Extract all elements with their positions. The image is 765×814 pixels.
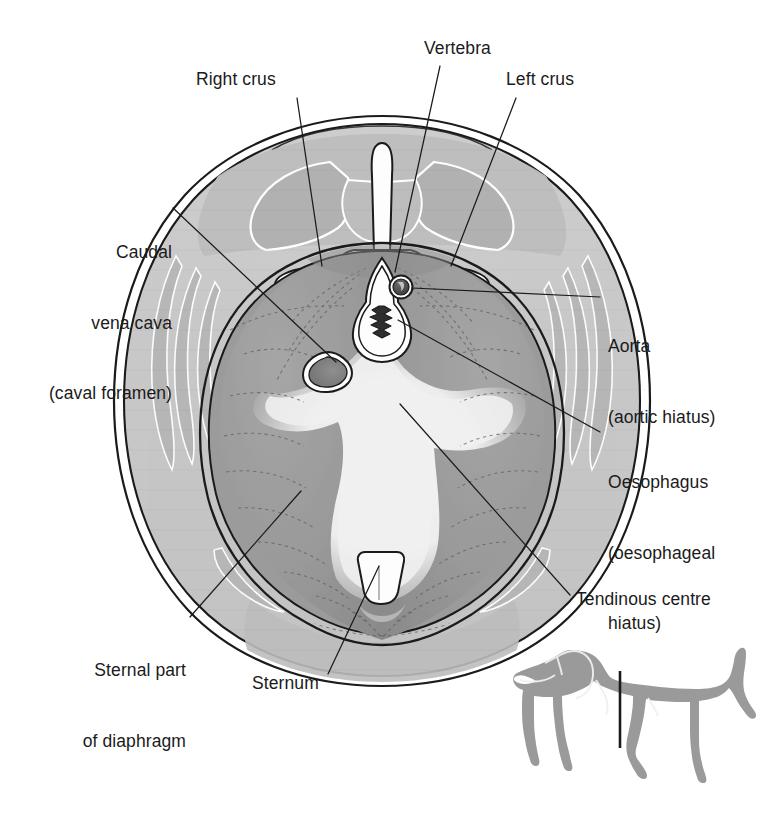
aorta <box>390 276 413 299</box>
label-oesophagus-line2: (oesophageal <box>608 542 715 566</box>
label-sternum: Sternum <box>252 672 319 696</box>
label-sternal-part-line1: Sternal part <box>0 659 186 683</box>
label-caudal-vena-cava-line3: (caval foramen) <box>0 382 172 406</box>
figure-canvas: Right crus Vertebra Left crus Caudal ven… <box>0 0 765 814</box>
label-caudal-vena-cava-line1: Caudal <box>0 241 172 265</box>
label-oesophagus-line3: hiatus) <box>608 612 715 636</box>
label-tendinous-centre: Tendinous centre <box>576 588 711 612</box>
label-oesophagus-line1: Oesophagus <box>608 471 715 495</box>
label-aorta-line1: Aorta <box>608 335 716 359</box>
label-caudal-vena-cava-line2: vena cava <box>0 312 172 336</box>
label-oesophagus: Oesophagus (oesophageal hiatus) <box>608 424 715 683</box>
label-caudal-vena-cava: Caudal vena cava (caval foramen) <box>0 194 172 453</box>
label-right-crus: Right crus <box>196 68 276 92</box>
label-sternal-part: Sternal part of diaphragm <box>0 612 186 800</box>
label-sternal-part-line2: of diaphragm <box>0 730 186 754</box>
label-left-crus: Left crus <box>506 68 574 92</box>
label-vertebra: Vertebra <box>424 37 491 61</box>
